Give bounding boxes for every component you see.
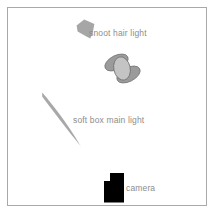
label-camera: camera <box>126 184 155 193</box>
label-soft-box-main-light: soft box main light <box>73 116 144 125</box>
lighting-setup-diagram: snoot hair light soft box main light cam… <box>0 0 223 218</box>
umbrella-light-icon <box>102 51 143 87</box>
label-snoot-hair-light: snoot hair light <box>89 29 147 38</box>
camera-icon <box>104 173 124 203</box>
